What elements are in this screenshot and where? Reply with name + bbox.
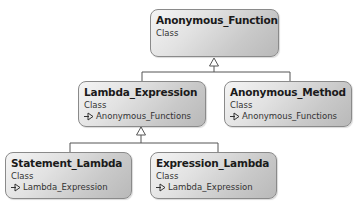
class-kind: Class bbox=[230, 100, 351, 111]
class-box-lambda-expression[interactable]: Lambda_Expression Class Anonymous_Functi… bbox=[78, 81, 206, 127]
class-name: Anonymous_Function bbox=[156, 14, 278, 27]
class-box-anonymous-method[interactable]: Anonymous_Method Class Anonymous_Functio… bbox=[224, 81, 352, 127]
class-box-expression-lambda[interactable]: Expression_Lambda Class Lambda_Expressio… bbox=[150, 152, 277, 199]
class-kind: Class bbox=[84, 100, 205, 111]
inheritance-arrow-icon bbox=[137, 127, 146, 135]
parent-class-reference: Lambda_Expression bbox=[156, 182, 276, 193]
parent-class-name: Lambda_Expression bbox=[168, 182, 253, 193]
parent-class-name: Anonymous_Functions bbox=[242, 111, 337, 122]
class-name: Statement_Lambda bbox=[11, 157, 131, 170]
inherits-arrow-icon bbox=[84, 112, 94, 121]
class-diagram: Anonymous_Function Class Lambda_Expressi… bbox=[0, 0, 357, 209]
parent-class-reference: Lambda_Expression bbox=[11, 182, 131, 193]
parent-class-name: Lambda_Expression bbox=[23, 182, 108, 193]
class-kind: Class bbox=[11, 171, 131, 182]
parent-class-reference: Anonymous_Functions bbox=[84, 111, 205, 122]
inherits-arrow-icon bbox=[230, 112, 240, 121]
inheritance-arrow-icon bbox=[210, 58, 219, 66]
parent-class-name: Anonymous_Functions bbox=[96, 111, 191, 122]
class-kind: Class bbox=[156, 171, 276, 182]
inherits-arrow-icon bbox=[11, 183, 21, 192]
class-box-statement-lambda[interactable]: Statement_Lambda Class Lambda_Expression bbox=[5, 152, 132, 199]
inherits-arrow-icon bbox=[156, 183, 166, 192]
class-name: Expression_Lambda bbox=[156, 157, 276, 170]
class-kind: Class bbox=[156, 28, 278, 39]
parent-class-reference: Anonymous_Functions bbox=[230, 111, 351, 122]
class-name: Lambda_Expression bbox=[84, 86, 205, 99]
class-name: Anonymous_Method bbox=[230, 86, 351, 99]
class-box-anonymous-function[interactable]: Anonymous_Function Class bbox=[150, 9, 279, 57]
